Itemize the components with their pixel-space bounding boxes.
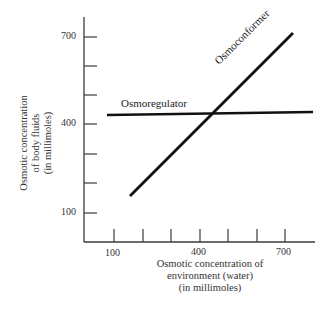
y-ticks xyxy=(84,37,97,213)
y-tick-label-700: 700 xyxy=(61,30,76,41)
x-axis-label-line-3: (in millimoles) xyxy=(120,282,300,294)
y-axis-label: Osmotic concentration of body fluids (in… xyxy=(6,70,66,215)
osmoregulator-label: Osmoregulator xyxy=(121,97,187,109)
y-axis-label-line-3: (in millimoles) xyxy=(42,95,54,190)
x-axis-label-line-2: environment (water) xyxy=(120,270,300,282)
x-axis-label-line-1: Osmotic concentration of xyxy=(120,258,300,270)
x-ticks xyxy=(114,229,285,242)
y-axis-label-line-1: Osmotic concentration xyxy=(18,95,30,190)
x-tick-label-100: 100 xyxy=(105,247,120,258)
x-tick-label-400: 400 xyxy=(191,246,206,257)
x-axis-label: Osmotic concentration of environment (wa… xyxy=(120,258,300,294)
x-tick-label-700: 700 xyxy=(276,246,291,257)
y-axis-label-line-2: of body fluids xyxy=(30,95,42,190)
